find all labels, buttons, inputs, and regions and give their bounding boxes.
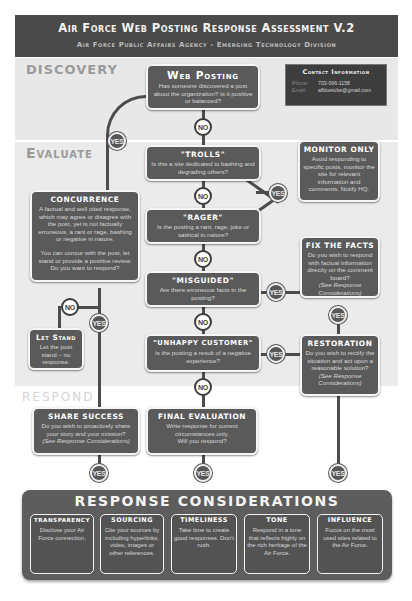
no-badge-misguided: NO bbox=[194, 313, 212, 331]
trolls-text: Is this a site dedicated to bashing and … bbox=[150, 160, 256, 175]
consideration-card-timeliness: Timeliness Take time to create good resp… bbox=[171, 514, 237, 574]
final-eval-title: Final Evaluation bbox=[151, 412, 253, 421]
consideration-card-sourcing: Sourcing Cite your sources by including … bbox=[100, 514, 164, 574]
restoration-node: Restoration Do you wish to rectify the s… bbox=[300, 334, 380, 396]
card-text: Focus on the most used sites related to … bbox=[320, 527, 380, 549]
consideration-card-tone: Tone Respond in a tone that reflects hig… bbox=[244, 514, 310, 574]
card-title: Transparency bbox=[33, 517, 91, 524]
yes-badge-final-eval: YES bbox=[194, 464, 212, 482]
consideration-card-influence: Influence Focus on the most used sites r… bbox=[317, 514, 383, 574]
restoration-note: (See Response Considerations) bbox=[318, 372, 361, 387]
concurrence-line bbox=[106, 150, 109, 192]
let-stand-text: Let the post stand – no response. bbox=[33, 343, 79, 366]
yes-badge-discovery: YES bbox=[108, 132, 126, 150]
fix-the-facts-node: Fix the Facts Do you wish to respond wit… bbox=[300, 236, 380, 298]
let-stand-node: Let Stand Let the post stand – no respon… bbox=[28, 328, 84, 370]
trolls-title: "Trolls" bbox=[150, 150, 256, 159]
title-banner: Air Force Web Posting Response Assessmen… bbox=[15, 15, 398, 57]
yes-badge-trolls: YES bbox=[269, 184, 287, 202]
phone-value: 703-696-1158 bbox=[318, 80, 350, 87]
no-badge-unhappy: NO bbox=[194, 378, 212, 396]
concurrence-text-2: You can concur with the post, let stand … bbox=[35, 249, 135, 272]
let-stand-title: Let Stand bbox=[33, 333, 79, 342]
concurrence-text: A factual and well cited response, which… bbox=[35, 205, 135, 243]
monitor-title: Monitor Only bbox=[303, 145, 375, 154]
rager-title: "Rager" bbox=[150, 213, 256, 222]
yes-badge-concurrence: YES bbox=[90, 314, 108, 332]
email-link[interactable]: afbluetube@gmail.com bbox=[318, 87, 371, 94]
discovery-label: DISCOVERY bbox=[26, 62, 118, 77]
card-text: Cite your sources by including hyperlink… bbox=[103, 527, 161, 557]
contact-info-box: Contact Information Phone: 703-696-1158 … bbox=[285, 64, 387, 106]
share-success-note: (See Response Considerations) bbox=[42, 437, 130, 444]
card-title: Tone bbox=[247, 517, 307, 524]
no-badge-web-posting: NO bbox=[194, 118, 212, 136]
card-text: Respond in a tone that reflects highly o… bbox=[247, 527, 307, 557]
card-title: Timeliness bbox=[174, 517, 234, 524]
final-evaluation-node: Final Evaluation Write response for curr… bbox=[146, 407, 258, 455]
considerations-title: Response Considerations bbox=[22, 493, 392, 509]
monitor-only-node: Monitor Only Avoid responding to specifi… bbox=[298, 140, 380, 202]
no-badge-trolls: NO bbox=[194, 187, 212, 205]
unhappy-title: "Unhappy Customer" bbox=[150, 339, 256, 348]
consideration-card-transparency: Transparency Disclose your Air Force con… bbox=[30, 514, 94, 574]
yes-badge-fix-facts: YES bbox=[329, 306, 347, 324]
page-subtitle: Air Force Public Affairs Agency - Emergi… bbox=[15, 41, 398, 49]
card-title: Influence bbox=[320, 517, 380, 524]
misguided-node: "Misguided" Are there erroneous facts in… bbox=[145, 271, 261, 307]
yes-badge-misguided: YES bbox=[267, 283, 285, 301]
unhappy-customer-node: "Unhappy Customer" Is the posting a resu… bbox=[145, 334, 261, 372]
yes-badge-share-success: YES bbox=[90, 464, 108, 482]
web-posting-text: Has someone discovered a post about the … bbox=[151, 82, 255, 105]
misguided-text: Are there erroneous facts in the posting… bbox=[150, 286, 256, 301]
yes-badge-unhappy: YES bbox=[267, 345, 285, 363]
restoration-text: Do you wish to rectify the situation and… bbox=[305, 349, 375, 372]
fix-facts-note: (See Response Considerations) bbox=[318, 281, 361, 296]
response-considerations-panel: Response Considerations Transparency Dis… bbox=[22, 490, 392, 580]
no-badge-rager: NO bbox=[194, 250, 212, 268]
trolls-node: "Trolls" Is this a site dedicated to bas… bbox=[145, 145, 261, 181]
email-label: Email: bbox=[292, 87, 318, 94]
fix-facts-title: Fix the Facts bbox=[305, 241, 375, 250]
phone-label: Phone: bbox=[292, 80, 318, 87]
share-success-text: Do you wish to proactively share your st… bbox=[37, 422, 135, 437]
unhappy-text: Is the posting a result of a negative ex… bbox=[150, 349, 256, 364]
web-posting-title: Web Posting bbox=[151, 69, 255, 81]
restoration-down-line bbox=[337, 395, 340, 475]
share-success-node: Share Success Do you wish to proactively… bbox=[32, 407, 140, 455]
no-badge-concurrence: NO bbox=[61, 298, 79, 316]
card-title: Sourcing bbox=[103, 517, 161, 524]
fix-facts-text: Do you wish to respond with factual info… bbox=[305, 251, 375, 281]
rager-text: Is the posting a rant, rage, joke or sat… bbox=[150, 223, 256, 238]
final-eval-text: Write response for current circumstances… bbox=[151, 422, 253, 437]
rager-node: "Rager" Is the posting a rant, rage, jok… bbox=[145, 208, 261, 244]
monitor-text: Avoid responding to specific posts, moni… bbox=[303, 155, 375, 193]
concurrence-title: Concurrence bbox=[35, 195, 135, 204]
respond-label: Respond bbox=[22, 390, 94, 404]
final-eval-text-2: Will you respond? bbox=[151, 437, 253, 445]
card-text: Disclose your Air Force connection. bbox=[33, 527, 91, 542]
restoration-title: Restoration bbox=[305, 339, 375, 348]
evaluate-label: Evaluate bbox=[26, 145, 93, 161]
concurrence-node: Concurrence A factual and well cited res… bbox=[30, 190, 140, 282]
card-text: Take time to create good responses. Don'… bbox=[174, 527, 234, 549]
share-success-title: Share Success bbox=[37, 412, 135, 421]
misguided-title: "Misguided" bbox=[150, 276, 256, 285]
page-title: Air Force Web Posting Response Assessmen… bbox=[15, 21, 398, 35]
contact-title: Contact Information bbox=[292, 68, 380, 76]
yes-badge-restoration: YES bbox=[329, 464, 347, 482]
web-posting-node: Web Posting Has someone discovered a pos… bbox=[146, 64, 260, 110]
